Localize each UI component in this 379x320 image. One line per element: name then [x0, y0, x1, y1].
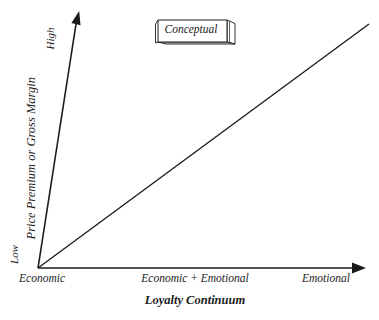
y-axis-high-label: High [45, 17, 56, 61]
conceptual-badge-label: Conceptual [155, 23, 227, 35]
conceptual-chart-figure: Price Premium or Gross Margin High Low E… [0, 0, 379, 320]
x-axis-title: Loyalty Continuum [120, 294, 270, 307]
badge-side-face [227, 20, 235, 44]
y-axis-arrowhead [71, 11, 80, 25]
y-axis-low-label: Low [9, 235, 20, 275]
y-axis-title: Price Premium or Gross Margin [25, 53, 38, 263]
x-axis-arrowhead [352, 262, 366, 273]
x-tick-label-emotional: Emotional [288, 273, 364, 285]
conceptual-badge: Conceptual [155, 17, 239, 47]
x-tick-label-economic-plus-emotional: Economic + Emotional [130, 273, 260, 285]
data-line-price-premium [38, 24, 369, 268]
x-tick-label-economic: Economic [4, 273, 80, 285]
